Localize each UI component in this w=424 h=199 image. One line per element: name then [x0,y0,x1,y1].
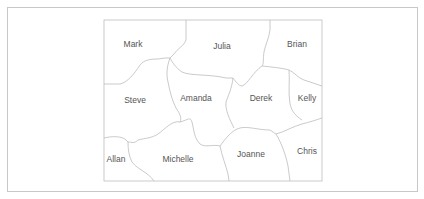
border-allan-michelle [128,142,154,181]
region-map: Mark Julia Brian Steve Amanda Derek Kell… [0,0,424,199]
region-label-joanne: Joanne [237,149,265,159]
region-label-steve: Steve [124,95,146,105]
border-mark-julia [170,20,186,58]
border-kelly-chris [276,118,322,134]
border-steve-allan [104,137,128,142]
border-joanne-chris [276,134,290,181]
border-julia-amanda [165,58,233,78]
border-amanda-derek [226,78,234,128]
border-brian-kelly [262,66,322,86]
region-label-amanda: Amanda [180,93,212,103]
region-label-julia: Julia [213,41,231,51]
border-julia-brian [262,20,270,66]
region-label-derek: Derek [250,93,273,103]
border-julia-derek [233,66,262,86]
border-michelle-joanne [220,146,229,181]
region-label-allan: Allan [107,154,126,164]
border-amanda-michelle [180,119,220,146]
region-label-kelly: Kelly [298,93,317,103]
border-steve-michelle [128,122,180,143]
border-steve-amanda [167,58,181,122]
border-derek-joanne [220,127,276,146]
region-label-mark: Mark [124,39,144,49]
region-label-chris: Chris [297,146,317,156]
region-label-michelle: Michelle [162,154,193,164]
region-label-brian: Brian [287,39,307,49]
border-mark-steve [104,58,165,84]
